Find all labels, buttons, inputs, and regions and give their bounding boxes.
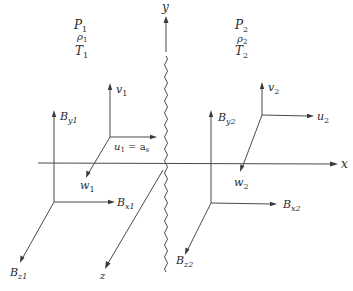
x-arrowhead-icon bbox=[330, 162, 338, 167]
By1-arrowhead-icon bbox=[52, 110, 56, 117]
u1-label: u1 = as bbox=[114, 141, 150, 154]
By2-arrowhead-icon bbox=[209, 110, 213, 117]
Bz2-label: Bz2 bbox=[175, 254, 193, 269]
x-axis: x bbox=[38, 157, 348, 171]
region1-velocity-frame: v1 u1 = as w1 bbox=[80, 83, 157, 194]
region2-velocity-frame: v2 u2 w2 bbox=[234, 81, 329, 191]
Bx1-arrowhead-icon bbox=[108, 200, 115, 204]
Bx1-label: Bx1 bbox=[116, 196, 135, 211]
z-axis: z bbox=[99, 170, 163, 281]
v2-label: v2 bbox=[268, 81, 279, 96]
region2-field-frame: By2 Bx2 Bz2 bbox=[175, 110, 301, 269]
z-axis-label: z bbox=[99, 270, 106, 281]
w1-label: w1 bbox=[80, 179, 95, 194]
By1-label: By1 bbox=[59, 110, 78, 125]
z-arrowhead-icon bbox=[105, 261, 111, 269]
region2-state: P2 ρ2 T2 bbox=[234, 18, 248, 60]
pressure-2: P2 bbox=[234, 18, 248, 34]
v1-arrowhead-icon bbox=[108, 83, 112, 90]
Bx2-label: Bx2 bbox=[282, 198, 301, 213]
u2-arrowhead-icon bbox=[307, 114, 314, 118]
region1-field-frame: By1 Bx1 Bz1 bbox=[9, 110, 135, 281]
By2-label: By2 bbox=[217, 111, 236, 126]
temperature-2: T2 bbox=[235, 44, 248, 60]
u2-label: u2 bbox=[317, 110, 329, 125]
Bx2-arrowhead-icon bbox=[270, 202, 277, 206]
region1-state: P1 ρ1 T1 bbox=[73, 18, 88, 60]
y-axis: y bbox=[161, 0, 169, 52]
temperature-1: T1 bbox=[75, 44, 88, 60]
Bz1-label: Bz1 bbox=[9, 266, 27, 281]
shock-frame-diagram: y x z P1 ρ1 T1 P2 ρ2 T2 v1 u1 = as w1 bbox=[0, 0, 353, 291]
w2-label: w2 bbox=[234, 176, 249, 191]
shock-front-wavy-line bbox=[165, 56, 168, 272]
x-axis-label: x bbox=[341, 157, 348, 171]
y-axis-label: y bbox=[161, 0, 169, 14]
y-arrowhead-icon bbox=[164, 16, 169, 23]
u1-arrowhead-icon bbox=[150, 135, 157, 139]
v2-arrowhead-icon bbox=[260, 82, 264, 89]
w2-arrowhead-icon bbox=[240, 165, 244, 173]
v1-label: v1 bbox=[116, 83, 127, 98]
